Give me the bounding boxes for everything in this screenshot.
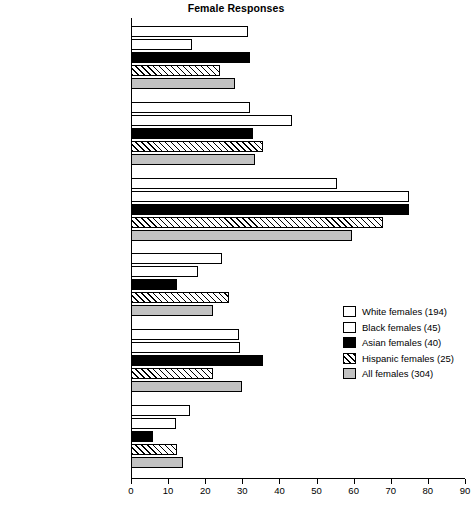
bar — [131, 141, 263, 152]
x-tick-mark — [391, 479, 392, 484]
bar — [131, 128, 253, 139]
legend-label-white-females: White females (194) — [362, 306, 447, 317]
x-tick-label: 40 — [264, 485, 294, 496]
bar — [131, 342, 240, 353]
legend-item-black-females: Black females (45) — [343, 320, 469, 336]
legend-swatch-hatched-icon — [343, 353, 356, 364]
legend-swatch-black-icon — [343, 337, 356, 348]
bar — [131, 266, 198, 277]
bar — [131, 405, 190, 416]
x-tick-label: 30 — [227, 485, 257, 496]
x-tick-label: 50 — [302, 485, 332, 496]
legend-item-asian-females: Asian females (40) — [343, 335, 469, 351]
bar — [131, 39, 192, 50]
bar — [131, 178, 337, 189]
bar — [131, 115, 292, 126]
legend-swatch-dotted-icon — [343, 322, 356, 333]
x-tick-mark — [205, 479, 206, 484]
legend-item-white-females: White females (194) — [343, 304, 469, 320]
bar — [131, 381, 242, 392]
bar — [131, 444, 177, 455]
bar — [131, 292, 229, 303]
x-tick-mark — [168, 479, 169, 484]
legend-swatch-gray-icon — [343, 368, 356, 379]
x-tick-label: 0 — [116, 485, 146, 496]
bar — [131, 217, 383, 228]
bar — [131, 102, 250, 113]
x-tick-mark — [242, 479, 243, 484]
bar — [131, 26, 248, 37]
legend-label-black-females: Black females (45) — [362, 322, 441, 333]
x-tick-mark — [279, 479, 280, 484]
x-tick-label: 80 — [413, 485, 443, 496]
bar — [131, 204, 409, 215]
legend-swatch-white-icon — [343, 306, 356, 317]
bar — [131, 230, 352, 241]
legend-label-hispanic-females: Hispanic females (25) — [362, 353, 454, 364]
chart-container: Female Responses 0102030405060708090 Use… — [0, 0, 472, 506]
x-tick-mark — [354, 479, 355, 484]
x-tick-label: 20 — [190, 485, 220, 496]
x-tick-label: 60 — [339, 485, 369, 496]
x-tick-mark — [465, 479, 466, 484]
bar — [131, 253, 222, 264]
bar — [131, 191, 409, 202]
x-tick-mark — [131, 479, 132, 484]
bar — [131, 305, 213, 316]
bar — [131, 368, 213, 379]
bar — [131, 431, 153, 442]
x-axis-line — [131, 478, 465, 479]
x-tick-mark — [428, 479, 429, 484]
legend-item-all-females: All females (304) — [343, 366, 469, 382]
bar — [131, 355, 263, 366]
bar — [131, 418, 176, 429]
bar — [131, 65, 220, 76]
chart-legend: White females (194) Black females (45) A… — [343, 304, 469, 382]
x-tick-label: 70 — [376, 485, 406, 496]
chart-title: Female Responses — [0, 2, 472, 14]
x-tick-mark — [317, 479, 318, 484]
bar — [131, 78, 235, 89]
legend-label-asian-females: Asian females (40) — [362, 337, 441, 348]
bar — [131, 52, 250, 63]
legend-item-hispanic-females: Hispanic females (25) — [343, 351, 469, 367]
bar — [131, 457, 183, 468]
x-tick-label: 90 — [450, 485, 472, 496]
legend-label-all-females: All females (304) — [362, 368, 433, 379]
plot-area: 0102030405060708090 — [131, 18, 465, 479]
x-tick-label: 10 — [153, 485, 183, 496]
bar — [131, 279, 177, 290]
bar — [131, 154, 255, 165]
bar — [131, 329, 239, 340]
